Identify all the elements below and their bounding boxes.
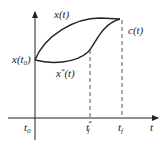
label-x-star-t: x*(t) — [55, 67, 75, 80]
label-x-t: x(t) — [53, 8, 70, 21]
tick-label-tf: tf — [118, 121, 124, 135]
curve-x-t — [35, 18, 120, 60]
tick-label-tf-star: t*f — [86, 119, 92, 135]
tick-label-t0: t0 — [24, 121, 31, 135]
x-axis-label: t — [150, 121, 154, 133]
label-c-t: c(t) — [128, 24, 144, 37]
label-x-t0: x(t0) — [11, 53, 31, 67]
diagram-canvas: x(t) c(t) x(t0) x*(t) t0 t*f tf t — [0, 0, 166, 145]
